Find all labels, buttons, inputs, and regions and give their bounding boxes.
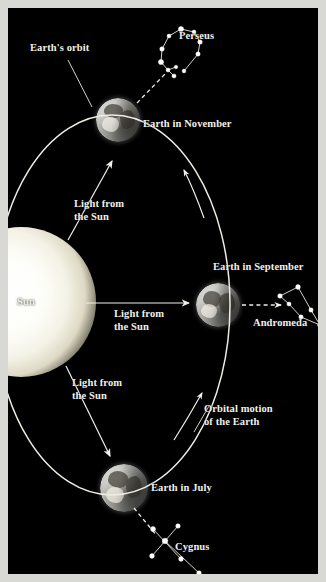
star bbox=[166, 68, 170, 72]
star bbox=[287, 302, 291, 306]
star bbox=[196, 52, 200, 56]
label-light-from-sun-upper: Light from the Sun bbox=[74, 198, 124, 223]
earth-orbit-path bbox=[8, 115, 230, 495]
earths-orbit-leader-line bbox=[68, 60, 92, 107]
star bbox=[162, 538, 168, 544]
star bbox=[197, 571, 202, 574]
label-light-from-sun-lower: Light from the Sun bbox=[72, 377, 122, 402]
star bbox=[160, 47, 165, 52]
star bbox=[296, 285, 301, 290]
label-orbital-motion: Orbital motion of the Earth bbox=[204, 403, 273, 428]
star bbox=[278, 294, 283, 299]
star bbox=[179, 557, 184, 562]
label-sun: Sun bbox=[17, 296, 35, 309]
star bbox=[309, 308, 313, 312]
label-earths-orbit: Earth's orbit bbox=[30, 42, 89, 55]
label-perseus: Perseus bbox=[179, 30, 214, 43]
sightline-november-perseus bbox=[137, 74, 165, 103]
star bbox=[176, 524, 181, 529]
label-earth-november: Earth in November bbox=[143, 118, 232, 131]
star bbox=[158, 59, 163, 64]
star bbox=[174, 65, 178, 69]
label-light-from-sun-middle: Light from the Sun bbox=[114, 308, 164, 333]
figure-frame: Earth's orbit Perseus Earth in November … bbox=[0, 0, 326, 582]
star bbox=[172, 74, 176, 78]
star bbox=[150, 554, 155, 559]
star bbox=[182, 69, 186, 73]
label-andromeda: Andromeda bbox=[253, 317, 307, 330]
label-cygnus: Cygnus bbox=[175, 541, 209, 554]
orbital-motion-arrow-lower bbox=[174, 393, 202, 440]
label-earth-july: Earth in July bbox=[151, 482, 212, 495]
star bbox=[167, 34, 171, 38]
diagram-plate: Earth's orbit Perseus Earth in November … bbox=[8, 8, 318, 574]
diagram-scene: Earth's orbit Perseus Earth in November … bbox=[8, 8, 318, 574]
orbital-motion-arrow-upper bbox=[184, 170, 204, 218]
label-earth-september: Earth in September bbox=[213, 261, 303, 274]
star bbox=[151, 527, 156, 532]
sightline-july-cygnus bbox=[134, 508, 157, 536]
